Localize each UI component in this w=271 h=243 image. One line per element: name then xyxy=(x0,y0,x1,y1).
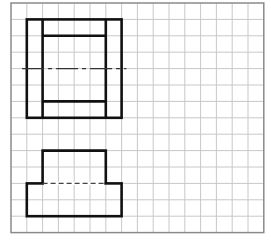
drawing-canvas xyxy=(0,0,271,243)
